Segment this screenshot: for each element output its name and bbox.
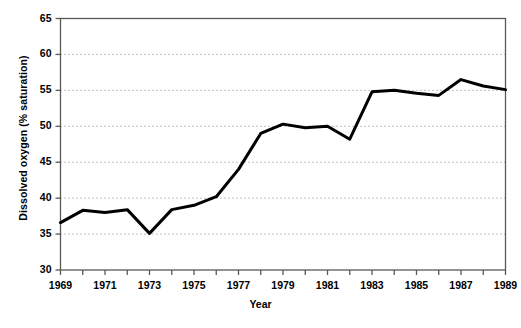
x-axis-title: Year	[0, 298, 521, 310]
x-axis-tick-marks	[61, 270, 506, 275]
gridlines	[61, 54, 506, 234]
chart-container: Dissolved oxygen (% saturation) 30354045…	[0, 0, 521, 328]
plot-frame	[61, 19, 506, 271]
data-series-line	[61, 80, 506, 234]
y-axis-tick-marks	[56, 19, 61, 271]
plot-area	[0, 0, 521, 328]
